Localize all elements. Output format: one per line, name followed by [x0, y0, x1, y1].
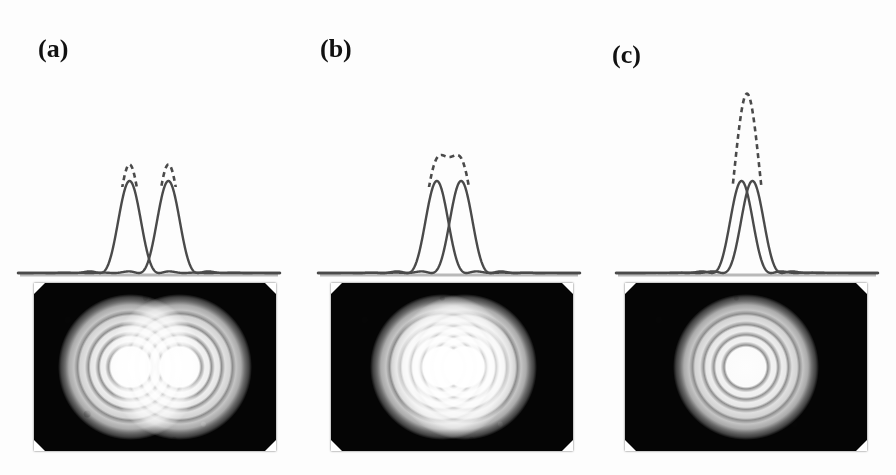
airy-plot-2: [318, 80, 580, 276]
photo-grain: [625, 283, 867, 451]
diffraction-photo-2: [331, 283, 573, 451]
airy-curve-1-2: [18, 181, 280, 273]
sum-curve-2: [318, 155, 580, 273]
airy-plot-3: [616, 80, 878, 276]
figure-root: (a)(b)(c): [0, 0, 896, 475]
photo-grain: [331, 283, 573, 451]
photo-grain: [34, 283, 276, 451]
airy-curve-3-2: [616, 181, 878, 273]
airy-plot-1: [18, 80, 280, 276]
airy-curve-2-2: [318, 181, 580, 273]
panel-label-1: (a): [38, 36, 68, 62]
diffraction-photo-3: [625, 283, 867, 451]
sum-curve-3: [616, 94, 878, 273]
diffraction-photo-1: [34, 283, 276, 451]
panel-label-3: (c): [612, 42, 641, 68]
panel-label-2: (b): [320, 36, 352, 62]
